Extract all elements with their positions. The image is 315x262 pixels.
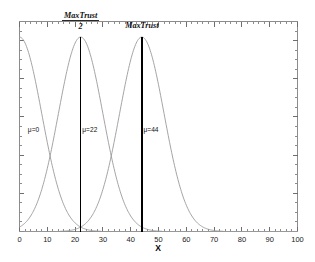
x-tick-label-20: 20 <box>71 235 79 244</box>
x-tick-label-10: 10 <box>43 235 51 244</box>
x-tick-label-0: 0 <box>17 235 21 244</box>
annotation-denominator-maxtrust-half-line: 2 <box>78 22 83 31</box>
x-tick-label-80: 80 <box>238 235 246 244</box>
x-tick-label-30: 30 <box>99 235 107 244</box>
annotation-numerator-maxtrust-half-line: MaxTrust <box>63 11 98 20</box>
x-tick-label-40: 40 <box>127 235 135 244</box>
mu-label-mu=22: μ=22 <box>82 126 97 134</box>
mu-label-mu=0: μ=0 <box>28 126 40 134</box>
x-tick-label-100: 100 <box>291 235 304 244</box>
chart-canvas: μ=0μ=22μ=44 MaxTrust2MaxTrust 0102030405… <box>0 0 315 262</box>
x-tick-label-70: 70 <box>210 235 218 244</box>
x-axis-title: X <box>155 243 161 253</box>
chart-figure: μ=0μ=22μ=44 MaxTrust2MaxTrust 0102030405… <box>0 0 315 262</box>
x-tick-label-60: 60 <box>182 235 190 244</box>
x-tick-label-90: 90 <box>266 235 274 244</box>
annotation-maxtrust-line: MaxTrust <box>124 21 159 30</box>
mu-label-mu=44: μ=44 <box>143 126 158 134</box>
